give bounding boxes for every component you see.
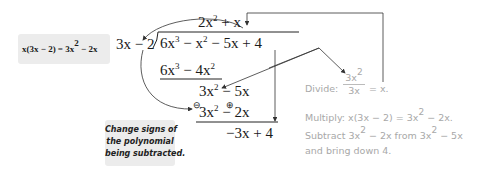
curved-arrow-divisor-to-step3 [141,50,192,109]
arrow-to-step2 [269,48,345,73]
arrow-to-step2-left [222,48,319,88]
step3-product: 3x2 − 2x [199,104,249,121]
dividend: 6x3 − x2 − 5x + 4 [160,35,262,52]
multiply-note: Multiply: x(3x − 2) = 3x2 − 2x. [305,112,453,123]
divide-label: Divide: [305,83,338,94]
divisor: 3x − 2 [116,36,154,53]
divide-result: = x. [369,83,389,94]
subtract-note-line1: Subtract 3x2 − 2x from 3x2 − 5x [305,130,463,141]
divide-fraction: 3x2 3x [343,72,365,96]
quotient: 2x2 + x [198,14,241,31]
remainder: −3x + 4 [226,125,273,142]
step1-product: 6x3 − 4x2 [160,62,215,79]
subtract-note-line2: and bring down 4. [305,145,391,156]
step2-difference: 3x2 − 5x [199,83,249,100]
